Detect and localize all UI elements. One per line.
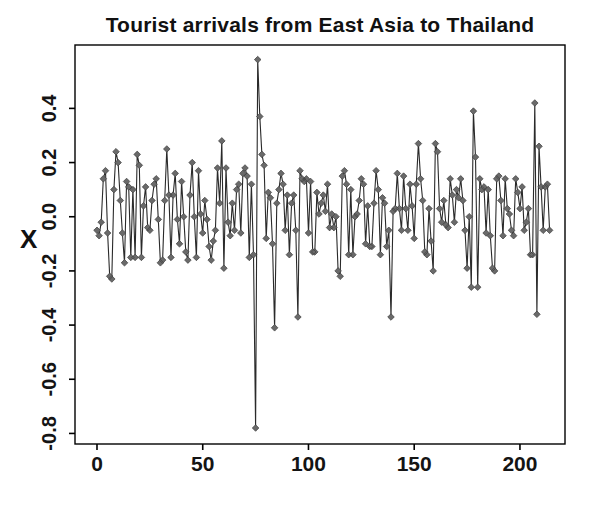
y-axis-label: X [20,224,37,255]
x-tick-label: 200 [502,452,537,475]
plot-border [75,45,565,444]
series-line [97,60,550,428]
y-tick-label: -0.2 [38,254,60,288]
y-tick-label: 0.4 [38,94,60,123]
plot-svg: 0501001502000.40.20.0-0.2-0.4-0.6-0.8 [0,0,590,513]
chart-title: Tourist arrivals from East Asia to Thail… [75,13,565,37]
x-tick-label: 150 [397,452,432,475]
y-tick-label: 0.0 [38,203,60,231]
y-tick-label: 0.2 [38,149,60,177]
x-tick-label: 50 [191,452,214,475]
x-tick-label: 100 [291,452,326,475]
x-tick-label: 0 [91,452,103,475]
y-tick-label: -0.6 [38,362,60,396]
y-tick-label: -0.4 [38,307,60,342]
y-tick-label: -0.8 [38,416,60,450]
series-markers [94,56,553,431]
figure: Tourist arrivals from East Asia to Thail… [0,0,590,513]
